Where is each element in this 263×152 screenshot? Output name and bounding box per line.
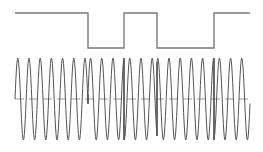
- bpsk-waveform-figure: [0, 0, 263, 152]
- waveform-canvas: [0, 0, 263, 152]
- digital-data-signal: [15, 13, 250, 48]
